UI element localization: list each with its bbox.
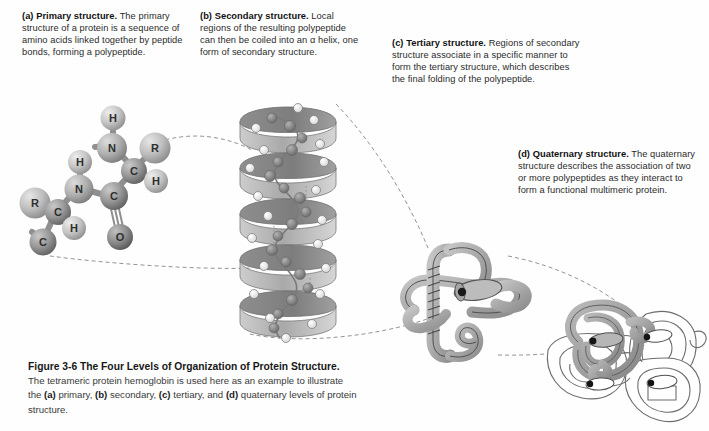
panel-tag-c: (c) xyxy=(392,38,404,48)
atom-group: H N R C H C O H N R C H C xyxy=(20,106,171,256)
figure-caption: Figure 3-6 The Four Levels of Organizati… xyxy=(28,360,358,417)
figure-title: The Four Levels of Organization of Prote… xyxy=(80,361,340,372)
panel-tag-a: (a) xyxy=(22,11,34,21)
atom-label-c-3: C xyxy=(54,206,62,218)
atom-label-h-1: H xyxy=(109,112,117,124)
figure-ref-c-text: tertiary, and xyxy=(173,389,226,400)
atom-label-h-2: H xyxy=(152,175,160,187)
figure-ref-a-text: primary, xyxy=(58,389,95,400)
figure-ref-b: (b) xyxy=(95,389,107,400)
atom-label-o-1: O xyxy=(116,231,125,243)
figure-ref-d: (d) xyxy=(226,389,238,400)
panel-heading-d: Quaternary structure. xyxy=(533,149,629,159)
figure-ref-b-text: secondary, xyxy=(110,389,159,400)
atom-label-n-1: N xyxy=(108,142,116,154)
panel-heading-b: Secondary structure. xyxy=(215,11,309,21)
atom-label-r-1: R xyxy=(151,142,159,154)
illustration-tertiary-structure xyxy=(392,236,532,366)
panel-heading-a: Primary structure. xyxy=(36,11,117,21)
connector-b-c-upper xyxy=(336,104,428,248)
atom-label-h-4: H xyxy=(70,222,78,234)
illustration-primary-structure: H N R C H C O H N R C H C xyxy=(16,100,196,270)
panel-tag-d: (d) xyxy=(518,149,530,159)
panel-caption-b: (b) Secondary structure. Local regions o… xyxy=(200,10,362,58)
figure-page: H N R C H C O H N R C H C xyxy=(0,0,709,431)
figure-ref-c: (c) xyxy=(159,389,171,400)
figure-ref-a: (a) xyxy=(44,389,56,400)
atom-label-r-2: R xyxy=(31,197,39,209)
figure-number: Figure 3-6 xyxy=(28,361,77,372)
panel-caption-c: (c) Tertiary structure. Regions of secon… xyxy=(392,37,582,85)
atom-label-h-3: H xyxy=(76,156,84,168)
atom-label-c-1: C xyxy=(130,165,138,177)
panel-tag-b: (b) xyxy=(200,11,212,21)
panel-caption-d: (d) Quaternary structure. The quaternary… xyxy=(518,148,700,196)
illustration-secondary-structure xyxy=(234,98,342,350)
panel-heading-c: Tertiary structure. xyxy=(406,38,486,48)
illustration-quaternary-structure xyxy=(534,288,709,431)
atom-label-c-2: C xyxy=(110,190,118,202)
atom-label-n-2: N xyxy=(75,183,83,195)
panel-caption-a: (a) Primary structure. The primary struc… xyxy=(22,10,190,58)
atom-label-c-4: C xyxy=(39,236,47,248)
